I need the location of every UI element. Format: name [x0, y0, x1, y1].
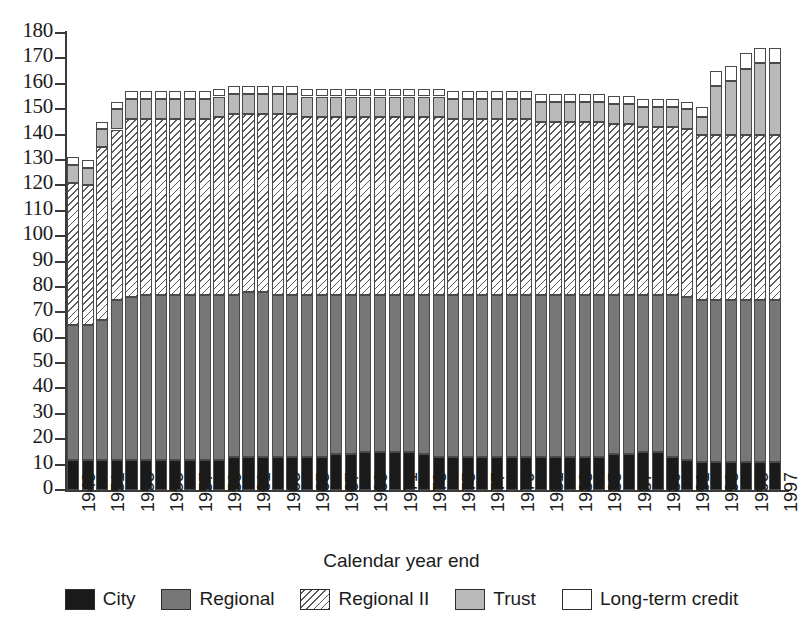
bar-segment-regional [199, 295, 211, 460]
y-axis-tick-mark [55, 261, 67, 263]
bar-segment-regional [403, 295, 415, 452]
x-axis-label-1953: 1953 [140, 496, 156, 512]
legend-item-city[interactable]: City [65, 588, 136, 610]
bar-segment-long-term-credit [301, 89, 313, 97]
bar-segment-regional [82, 325, 94, 460]
bar-segment-trust [433, 97, 445, 117]
bar-segment-trust [228, 94, 240, 114]
bar-1986 [608, 33, 620, 490]
bar-1961 [242, 33, 254, 490]
bar-1996 [754, 33, 766, 490]
bar-segment-regional-ii [564, 122, 576, 295]
bar-segment-long-term-credit [169, 91, 181, 99]
bar-segment-regional-ii [155, 119, 167, 294]
y-axis-tick-label: 50 [33, 350, 53, 371]
bar-segment-regional-ii [579, 122, 591, 295]
x-axis-label-1977: 1977 [490, 496, 506, 512]
bar-segment-trust [506, 99, 518, 119]
bar-1951 [96, 33, 108, 490]
plot-area [67, 33, 789, 490]
bar-segment-regional [213, 295, 225, 460]
bar-1976 [462, 33, 474, 490]
bar-segment-trust [111, 109, 123, 129]
bar-segment-trust [476, 99, 488, 119]
y-axis-tick-mark [55, 387, 67, 389]
y-axis-tick-label: 30 [33, 401, 53, 422]
bar-segment-regional-ii [67, 183, 79, 325]
bar-segment-trust [608, 104, 620, 124]
bar-segment-regional [754, 300, 766, 462]
x-axis-label-1949: 1949 [81, 496, 97, 512]
bar-segment-regional [345, 295, 357, 455]
bar-segment-regional [476, 295, 488, 457]
bar-segment-regional-ii [272, 114, 284, 294]
x-axis-label-1985: 1985 [607, 496, 623, 512]
legend-item-trust[interactable]: Trust [455, 588, 536, 610]
bar-1956 [169, 33, 181, 490]
bar-segment-long-term-credit [272, 86, 284, 94]
y-axis-tick-label: 90 [33, 249, 53, 270]
bar-segment-regional [740, 300, 752, 462]
bar-segment-long-term-credit [389, 89, 401, 97]
bar-segment-trust [316, 97, 328, 117]
y-axis-tick-mark [55, 235, 67, 237]
bar-1959 [213, 33, 225, 490]
bar-segment-regional [549, 295, 561, 457]
bar-segment-long-term-credit [374, 89, 386, 97]
bar-segment-regional [272, 295, 284, 457]
bar-1994 [725, 33, 737, 490]
bar-segment-regional-ii [316, 117, 328, 295]
bar-1953 [125, 33, 137, 490]
bar-1962 [257, 33, 269, 490]
bar-segment-trust [652, 107, 664, 127]
bar-segment-trust [418, 97, 430, 117]
bar-1997 [769, 33, 781, 490]
bar-segment-regional [623, 295, 635, 455]
legend-swatch-icon [455, 589, 485, 610]
bar-segment-trust [740, 69, 752, 135]
legend-item-regional[interactable]: Regional [161, 588, 274, 610]
bar-segment-regional-ii [608, 124, 620, 294]
bar-segment-regional-ii [696, 135, 708, 300]
bar-segment-long-term-credit [637, 99, 649, 107]
x-axis-label-1987: 1987 [637, 496, 653, 512]
bar-segment-regional-ii [359, 117, 371, 295]
legend-label: Trust [493, 588, 536, 610]
y-axis-tick-mark [55, 159, 67, 161]
y-axis-tick-mark [55, 362, 67, 364]
legend-item-regional-ii[interactable]: Regional II [300, 588, 429, 610]
y-axis-tick-label: 130 [22, 147, 53, 168]
bar-segment-trust [549, 102, 561, 122]
bar-segment-long-term-credit [666, 99, 678, 107]
bar-segment-regional [608, 295, 620, 455]
bar-segment-regional [169, 295, 181, 460]
y-axis-tick-mark [55, 32, 67, 34]
bar-segment-long-term-credit [769, 48, 781, 63]
bar-segment-regional [301, 295, 313, 457]
bar-segment-trust [96, 129, 108, 147]
bar-segment-trust [696, 117, 708, 135]
bar-segment-long-term-credit [476, 91, 488, 99]
bar-segment-long-term-credit [593, 94, 605, 102]
x-axis-label-1969: 1969 [373, 496, 389, 512]
bar-1950 [82, 33, 94, 490]
bar-segment-long-term-credit [696, 107, 708, 117]
bar-segment-regional [418, 295, 430, 455]
bar-1975 [447, 33, 459, 490]
bar-segment-long-term-credit [710, 71, 722, 86]
bar-1974 [433, 33, 445, 490]
bar-segment-long-term-credit [579, 94, 591, 102]
bar-segment-trust [637, 107, 649, 127]
bar-segment-regional [652, 295, 664, 452]
bar-1988 [637, 33, 649, 490]
y-axis-tick-mark [55, 438, 67, 440]
bar-segment-trust [286, 94, 298, 114]
bar-segment-trust [725, 81, 737, 134]
bar-1958 [199, 33, 211, 490]
bar-segment-regional-ii [710, 135, 722, 300]
legend-item-long-term-credit[interactable]: Long-term credit [562, 588, 738, 610]
bar-segment-trust [199, 99, 211, 119]
bar-segment-regional [67, 325, 79, 460]
bar-segment-long-term-credit [213, 89, 225, 97]
x-axis-label-1983: 1983 [578, 496, 594, 512]
